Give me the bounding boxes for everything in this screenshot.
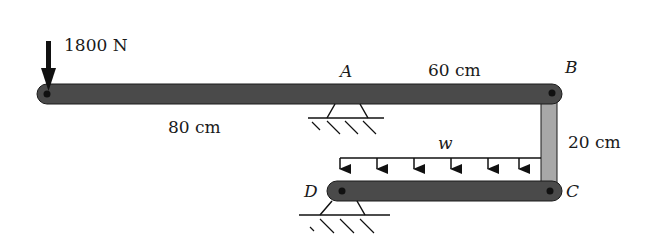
dim-right-span: 60 cm — [428, 60, 481, 80]
point-c-label: C — [566, 181, 579, 201]
top-beam — [37, 84, 562, 104]
pin-c — [547, 188, 554, 195]
distributed-load — [340, 158, 541, 169]
point-b-label: B — [564, 57, 578, 77]
dim-link-height: 20 cm — [568, 132, 621, 152]
lower-beam-dc — [327, 181, 562, 201]
pin-support-a — [308, 104, 384, 134]
pin-left-end — [44, 91, 51, 98]
point-a-label: A — [338, 61, 352, 81]
link-bc — [541, 92, 557, 192]
pin-b — [549, 90, 556, 97]
force-label: 1800 N — [64, 35, 128, 55]
load-w-label: w — [438, 133, 453, 153]
point-d-label: D — [303, 181, 318, 201]
pin-d — [339, 188, 346, 195]
dim-left-span: 80 cm — [168, 117, 221, 137]
pin-support-d — [299, 201, 390, 233]
mechanics-diagram: 1800 N A 60 cm B 80 cm 20 cm w D C — [0, 0, 647, 244]
